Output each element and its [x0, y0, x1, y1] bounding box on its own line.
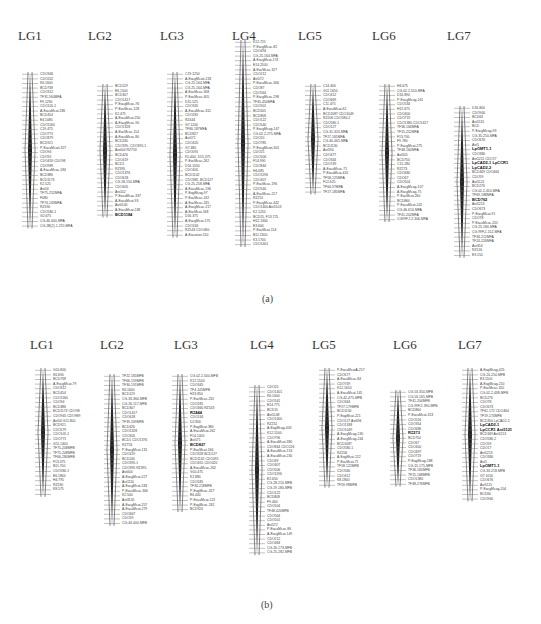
marker-label: P-EacMcac-405 — [185, 95, 213, 100]
marker-label: CG-02.2-500-MFB — [190, 374, 219, 379]
linkage-group-title: LG2 — [100, 337, 124, 353]
marker-column: CDO346CDO202K6.1600BCD738CDO312TF31.560M… — [40, 72, 72, 228]
marker-label: BCD924 — [190, 507, 219, 512]
marker-label: CG99F.2.2-306-MFA — [397, 217, 428, 222]
marker-column: H4.675CG-02.2-510-MFAD16.890P-EacgMcag-1… — [397, 84, 428, 222]
linkage-group-title: LG5 — [298, 28, 322, 44]
marker-label: TF48-276MFB — [408, 482, 438, 487]
marker-label: P-EacMcac-242 — [185, 196, 213, 201]
panel-b-caption: (b) — [261, 599, 273, 610]
marker-label: TF59-98MFB — [337, 483, 365, 488]
marker-label: P-EacaMcatA-257 — [337, 368, 365, 373]
linkage-group-title: LG7 — [447, 28, 471, 44]
marker-label: CG-2B(2)-1-270-MFA — [40, 224, 72, 229]
marker-column: K12.725P-EacgMcac-82CDO494CG-25-164-MFAA… — [253, 40, 281, 247]
linkage-group-title: LG6 — [393, 337, 417, 353]
panel-b: LG10456914151619212223242526273031323336… — [0, 310, 541, 624]
marker-label: BCD1184 — [115, 213, 146, 218]
marker-column: D16.800CDO940BCD63Ast5115BCDP-EacgMcag-9… — [472, 106, 508, 258]
marker-column: CG-02.2-500-MFBK12.1500CDO345TF4-145MFBH… — [190, 374, 219, 512]
linkage-group-title: LG1 — [30, 337, 54, 353]
linkage-group-title: LG3 — [174, 337, 198, 353]
marker-label: CG-33-360-MFB — [122, 397, 148, 402]
linkage-group-title: LG3 — [160, 28, 184, 44]
linkage-group-title: LG5 — [312, 337, 336, 353]
marker-column: C14.400G11.1650CDO412CDO669C11.475A-Eaca… — [323, 84, 354, 194]
marker-column: C19.1250A-EacgMcatt-233CG-25-164-MFACG-2… — [185, 72, 213, 237]
marker-column: P-EacaMcatA-257CDO677A-EacaMcac-84CDO749… — [337, 368, 365, 487]
marker-label: CG-19-180-MFB — [267, 486, 294, 491]
marker-column: G10.800K6.690BCD738A-EacgMcat-79CDO312BC… — [53, 368, 80, 492]
marker-label: K8.575 — [53, 487, 80, 492]
marker-label: CDO945 CDO989 — [53, 414, 80, 419]
marker-column: CDO20CDO1401K6.1000CDO541E14.775BCD15Ast… — [267, 385, 294, 555]
marker-label: P-EacaMcat-313 — [408, 413, 438, 418]
marker-label: CDO1401 — [253, 242, 281, 247]
marker-column: BCD129E6.1500BCD307CDO1417P-EacgMcac-76P… — [115, 84, 146, 217]
marker-label: A-EacgMcag-244 — [337, 437, 365, 442]
marker-column: TF22-165MFBTF66-159MFBTF30-191MFBK6.1600… — [122, 374, 148, 526]
marker-label: CG-25-282-MFB — [267, 550, 294, 555]
marker-label: A-EacaMcat-145 — [337, 391, 365, 396]
marker-label: A-Eacatsot-150 — [185, 233, 213, 238]
panel-a: LG1047s203538404142475054575859616265707… — [0, 0, 541, 310]
marker-label: TF27-185MFA — [323, 190, 354, 195]
marker-label: CDO940 — [480, 497, 512, 502]
marker-label: CG-44-400-MFB — [122, 521, 148, 526]
marker-column: CG-53-350-MFBCG-53-165-MFBTF41-204MFBCG-… — [408, 390, 438, 486]
marker-label: CG-02.2-438-MFB — [480, 391, 512, 396]
linkage-group-title: LG1 — [18, 28, 42, 44]
marker-label: A-EacgMcat-227 — [122, 475, 148, 480]
marker-label: E3.150 — [472, 253, 508, 258]
linkage-group-title: LG2 — [88, 28, 112, 44]
marker-label: CDO328 BCD127 — [190, 452, 219, 457]
linkage-group-title: LG7 — [458, 337, 482, 353]
marker-label: A-EacaMcat-230 — [267, 454, 294, 459]
linkage-group-title: LG6 — [372, 28, 396, 44]
marker-column: A-EagMcag-425CG-24-250-MFBE3.1100A-EagMc… — [480, 368, 512, 501]
panel-a-caption: (a) — [262, 293, 273, 304]
marker-label: A-EacgMcat-175 — [185, 219, 213, 224]
marker-label: P-EacaMcat-122 — [190, 498, 219, 503]
marker-label: A-EacgMcat-149 — [267, 532, 294, 537]
marker-label: P-EagMcat-221 — [337, 414, 365, 419]
linkage-group-title: LG4 — [250, 337, 274, 353]
